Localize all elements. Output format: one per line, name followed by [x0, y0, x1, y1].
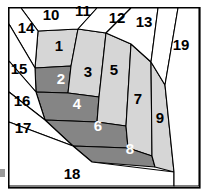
region-label-14: 14: [18, 19, 35, 36]
region-label-6: 6: [94, 117, 102, 134]
region-label-3: 3: [84, 63, 92, 80]
region-label-17: 17: [15, 119, 32, 136]
region-label-1: 1: [55, 37, 63, 54]
regions-layer: [9, 8, 199, 186]
region-label-19: 19: [173, 36, 190, 53]
region-label-18: 18: [64, 165, 81, 182]
region-label-16: 16: [14, 92, 31, 109]
region-label-15: 15: [11, 60, 28, 77]
region-label-4: 4: [73, 95, 82, 112]
region-4[interactable]: [36, 92, 99, 122]
region-label-8: 8: [126, 140, 134, 157]
region-label-13: 13: [136, 13, 153, 30]
region-label-10: 10: [43, 6, 60, 23]
region-label-11: 11: [75, 2, 91, 19]
left-edge-tick-marker: [0, 169, 5, 177]
partition-diagram: 12345678910111213141516171819: [0, 0, 208, 194]
region-label-2: 2: [57, 70, 65, 87]
figure-container: 12345678910111213141516171819: [0, 0, 208, 194]
region-label-12: 12: [109, 9, 126, 26]
region-label-7: 7: [134, 90, 142, 107]
region-label-5: 5: [110, 61, 118, 78]
region-label-9: 9: [156, 109, 164, 126]
region-2[interactable]: [35, 66, 71, 93]
